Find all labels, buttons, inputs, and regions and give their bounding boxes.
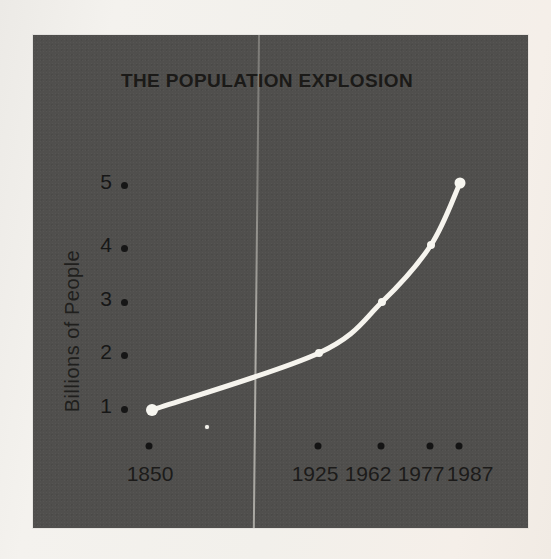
x-tick-dot-1925 [315,443,322,450]
x-tick-dot-1987 [456,443,463,450]
y-tick-dot [121,406,128,413]
y-tick-3: 3 [84,287,128,311]
y-tick-dot [121,299,128,306]
x-tick-label-1962: 1962 [345,462,392,486]
y-tick-dot [121,352,128,359]
y-tick-5: 5 [84,170,128,194]
y-tick-4: 4 [84,233,128,257]
y-tick-label: 3 [84,287,112,311]
y-tick-label: 2 [84,340,112,364]
y-tick-label: 4 [84,233,112,257]
y-tick-dot [121,182,128,189]
y-tick-label: 5 [84,170,112,194]
x-tick-dot-1850 [146,443,153,450]
chart-panel [33,35,528,528]
x-tick-label-1925: 1925 [292,462,339,486]
x-tick-dot-1977 [427,443,434,450]
x-tick-label-1977: 1977 [398,462,445,486]
y-tick-dot [121,245,128,252]
y-axis-label: Billions of People [61,250,84,412]
y-tick-1: 1 [84,394,128,418]
scan-speck [205,425,209,429]
chart-title: THE POPULATION EXPLOSION [121,70,413,92]
x-tick-label-1850: 1850 [127,462,174,486]
y-tick-label: 1 [84,394,112,418]
x-tick-label-1987: 1987 [447,462,494,486]
x-tick-dot-1962 [378,443,385,450]
y-tick-2: 2 [84,340,128,364]
